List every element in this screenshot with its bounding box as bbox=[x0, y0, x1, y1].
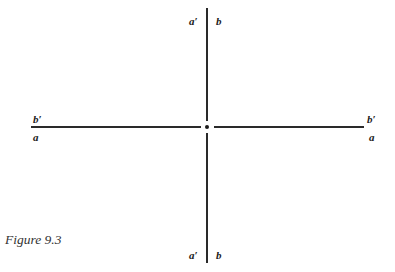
center-point bbox=[205, 125, 209, 129]
label-top-right: b bbox=[216, 16, 222, 27]
label-right-below: a bbox=[369, 132, 375, 143]
label-right-above: b′ bbox=[367, 114, 376, 125]
figure-caption: Figure 9.3 bbox=[5, 232, 62, 248]
label-bottom-right: b bbox=[216, 250, 222, 261]
horizontal-axis-left bbox=[31, 126, 201, 128]
label-top-left: a′ bbox=[189, 16, 198, 27]
label-bottom-left: a′ bbox=[189, 250, 198, 261]
vertical-axis-upper bbox=[206, 8, 208, 121]
vertical-axis-lower bbox=[206, 133, 208, 263]
horizontal-axis-right bbox=[214, 126, 364, 128]
label-left-above: b′ bbox=[33, 114, 42, 125]
label-left-below: a bbox=[33, 132, 39, 143]
